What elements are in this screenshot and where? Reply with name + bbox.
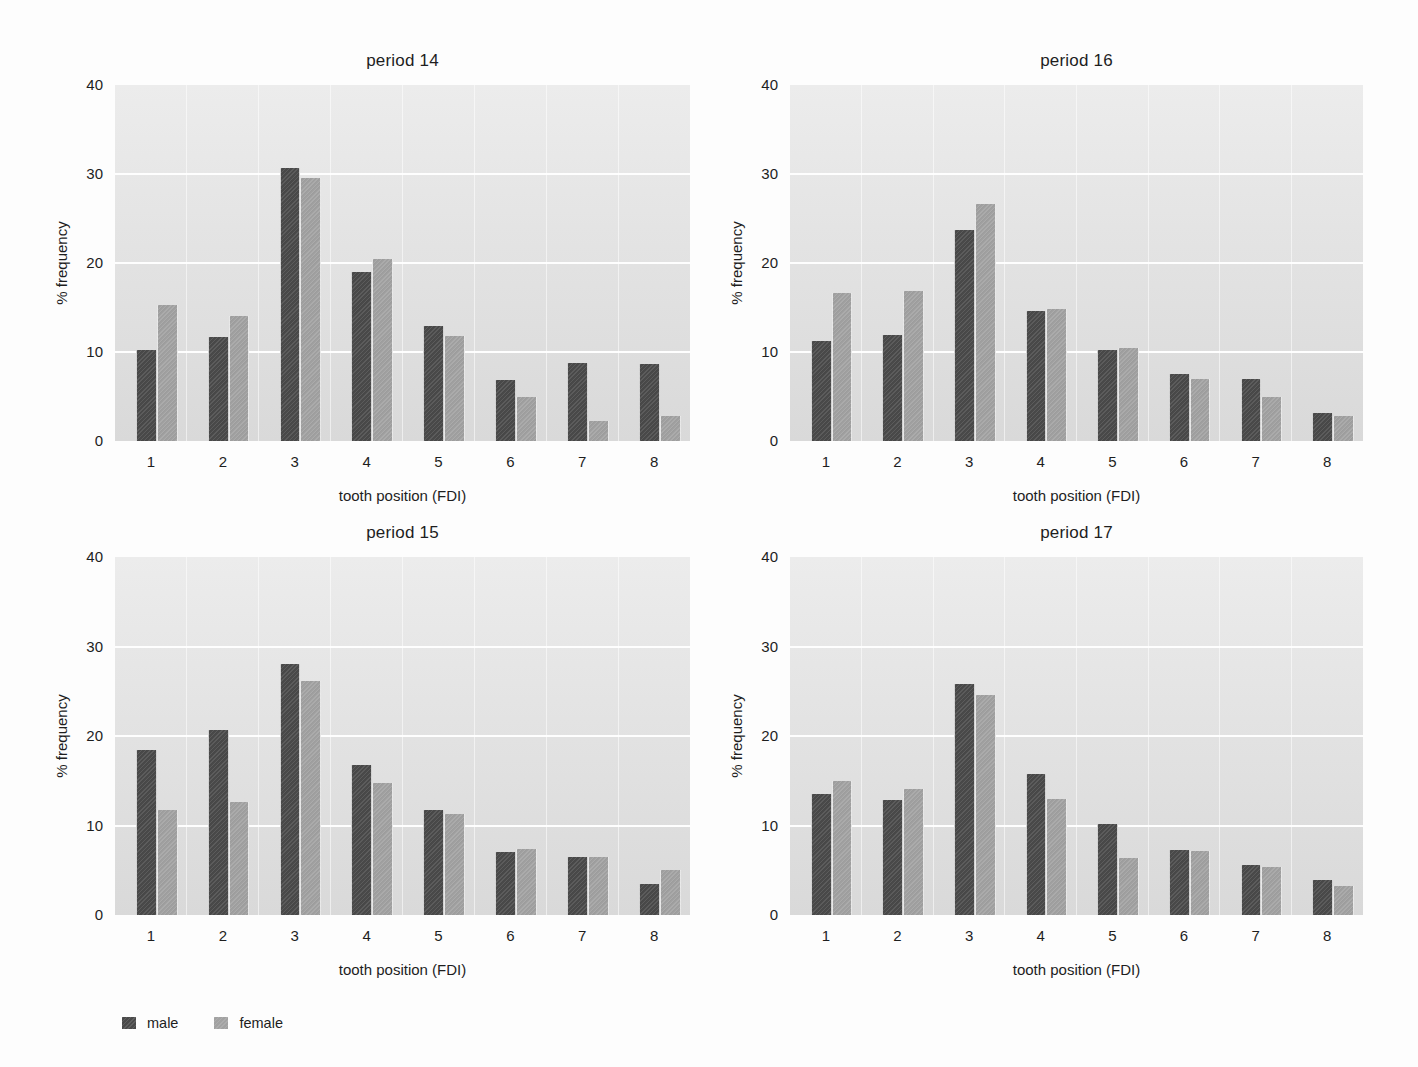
group-separator — [933, 85, 934, 441]
x-tick-3: 3 — [259, 927, 331, 944]
bar-female-6 — [1190, 379, 1211, 441]
x-tick-6: 6 — [1148, 927, 1220, 944]
bar-female-2 — [229, 316, 250, 441]
y-tick-40: 40 — [726, 76, 778, 93]
group-separator — [1076, 85, 1077, 441]
y-axis-label: % frequency — [728, 694, 745, 777]
y-axis-label: % frequency — [53, 221, 70, 304]
group-separator — [402, 557, 403, 915]
x-tick-1: 1 — [115, 927, 187, 944]
legend-swatch-female — [214, 1017, 228, 1029]
x-tick-7: 7 — [546, 927, 618, 944]
bar-female-4 — [1046, 799, 1067, 915]
bar-male-2 — [208, 337, 229, 441]
chart-title: period 17 — [790, 523, 1363, 543]
group-separator — [258, 557, 259, 915]
bar-male-4 — [1026, 311, 1047, 441]
group-separator — [1148, 557, 1149, 915]
x-tick-3: 3 — [259, 453, 331, 470]
bar-female-5 — [1118, 348, 1139, 441]
group-separator — [330, 557, 331, 915]
y-tick-30: 30 — [726, 638, 778, 655]
x-tick-1: 1 — [790, 453, 862, 470]
bar-male-6 — [1169, 374, 1190, 441]
x-tick-1: 1 — [115, 453, 187, 470]
bar-female-3 — [975, 204, 996, 441]
x-tick-8: 8 — [618, 453, 690, 470]
bar-male-7 — [1241, 865, 1262, 915]
x-tick-7: 7 — [1220, 927, 1292, 944]
x-tick-7: 7 — [546, 453, 618, 470]
bar-female-4 — [1046, 309, 1067, 441]
bar-male-5 — [1097, 350, 1118, 441]
x-tick-8: 8 — [1291, 453, 1363, 470]
legend-label-male: male — [147, 1015, 178, 1031]
x-tick-5: 5 — [1077, 927, 1149, 944]
legend-label-female: female — [239, 1015, 283, 1031]
x-tick-5: 5 — [403, 453, 475, 470]
bar-female-8 — [1333, 886, 1354, 915]
bar-male-2 — [208, 730, 229, 915]
group-separator — [186, 85, 187, 441]
bar-male-5 — [423, 810, 444, 915]
y-tick-40: 40 — [51, 548, 103, 565]
bar-female-2 — [903, 291, 924, 441]
bar-female-5 — [444, 336, 465, 441]
x-tick-7: 7 — [1220, 453, 1292, 470]
group-separator — [1219, 557, 1220, 915]
bar-female-8 — [660, 870, 681, 915]
y-tick-10: 10 — [726, 817, 778, 834]
x-tick-4: 4 — [1005, 927, 1077, 944]
x-tick-3: 3 — [933, 927, 1005, 944]
bar-female-1 — [832, 293, 853, 441]
legend-swatch-male — [122, 1017, 136, 1029]
x-tick-6: 6 — [1148, 453, 1220, 470]
bar-female-8 — [1333, 416, 1354, 441]
x-tick-3: 3 — [933, 453, 1005, 470]
bar-male-7 — [567, 363, 588, 441]
x-tick-2: 2 — [862, 453, 934, 470]
group-separator — [546, 85, 547, 441]
bar-female-3 — [300, 681, 321, 915]
y-tick-30: 30 — [726, 165, 778, 182]
group-separator — [330, 85, 331, 441]
x-tick-8: 8 — [1291, 927, 1363, 944]
bar-female-6 — [516, 849, 537, 915]
y-tick-40: 40 — [51, 76, 103, 93]
y-tick-0: 0 — [726, 432, 778, 449]
bar-male-3 — [954, 684, 975, 915]
bar-female-1 — [157, 810, 178, 915]
bar-female-2 — [903, 789, 924, 915]
y-tick-30: 30 — [51, 638, 103, 655]
x-tick-2: 2 — [862, 927, 934, 944]
bar-female-7 — [1261, 867, 1282, 915]
x-tick-6: 6 — [474, 453, 546, 470]
bar-female-4 — [372, 259, 393, 441]
x-tick-2: 2 — [187, 453, 259, 470]
bar-female-7 — [588, 857, 609, 915]
figure-canvas: period 1412345678010203040tooth position… — [0, 0, 1418, 1067]
x-axis-label: tooth position (FDI) — [115, 487, 690, 504]
group-separator — [1291, 85, 1292, 441]
group-separator — [1004, 85, 1005, 441]
bar-male-6 — [495, 380, 516, 441]
group-separator — [186, 557, 187, 915]
bar-male-1 — [811, 341, 832, 441]
group-separator — [258, 85, 259, 441]
bar-male-4 — [351, 272, 372, 441]
bar-male-4 — [1026, 774, 1047, 915]
bar-male-8 — [639, 364, 660, 441]
x-tick-6: 6 — [474, 927, 546, 944]
bar-female-4 — [372, 783, 393, 915]
group-separator — [1219, 85, 1220, 441]
bar-male-6 — [1169, 850, 1190, 915]
group-separator — [546, 557, 547, 915]
x-axis-label: tooth position (FDI) — [790, 487, 1363, 504]
y-tick-10: 10 — [51, 817, 103, 834]
x-axis-label: tooth position (FDI) — [790, 961, 1363, 978]
bar-female-3 — [975, 695, 996, 915]
group-separator — [861, 557, 862, 915]
group-separator — [474, 85, 475, 441]
group-separator — [618, 557, 619, 915]
bar-male-5 — [423, 326, 444, 441]
